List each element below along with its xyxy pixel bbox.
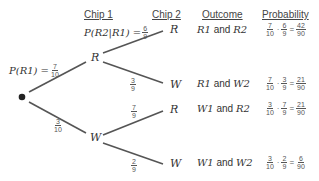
outcome-w1-w2: W1 and W2: [197, 157, 253, 168]
label-p-w2-given-w1: 29: [130, 158, 138, 173]
node-chip2-red-after-white: R: [170, 103, 178, 116]
label-p-w1: 310: [52, 118, 64, 133]
outcome-r1-w2: R1 and W2: [197, 78, 250, 89]
probability-r1-w2: 710 · 39 = 2190: [264, 76, 307, 91]
outcome-r1-r2: R1 and R2: [197, 24, 247, 35]
header-outcome: Outcome: [202, 9, 243, 20]
node-chip1-white: W: [90, 131, 101, 144]
label-p-w2-given-r1: 39: [129, 77, 137, 92]
probability-w1-r2: 310 · 79 = 2190: [264, 101, 307, 116]
label-p-r2-given-r1: P(R2|R1) = 69: [84, 25, 149, 40]
probability-r1-r2: 710 · 69 = 4290: [264, 22, 307, 37]
node-chip1-red: R: [91, 51, 99, 64]
header-chip2: Chip 2: [152, 9, 181, 20]
root-node: [19, 94, 26, 101]
header-chip1: Chip 1: [84, 9, 113, 20]
node-chip2-red-after-red: R: [170, 23, 178, 36]
node-chip2-white-after-red: W: [170, 78, 181, 91]
label-p-r2-given-w1: 79: [130, 104, 138, 119]
outcome-w1-r2: W1 and R2: [197, 103, 250, 114]
probability-w1-w2: 310 · 29 = 690: [264, 155, 307, 170]
node-chip2-white-after-white: W: [170, 157, 181, 170]
label-p-r1: P(R1) = 710: [9, 63, 61, 78]
header-probability: Probability: [262, 9, 309, 20]
